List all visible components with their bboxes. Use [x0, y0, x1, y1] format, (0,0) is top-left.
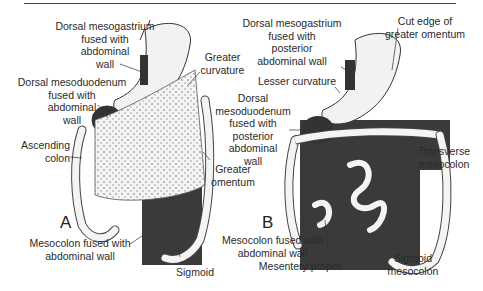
label-b-dorsal-mesogastrium: Dorsal mesogastrium fused with posterior… [238, 17, 346, 67]
label-a-sigmoid: Sigmoid [170, 266, 220, 279]
label-b-mesentery-proper: Mesentery proper [250, 260, 350, 273]
panel-letter-b: B [262, 213, 273, 233]
panel-letter-a: A [60, 213, 71, 233]
label-b-sigmoid-mesocolon: Sigmoid mesocolon [378, 252, 448, 277]
label-b-dorsal-mesoduodenum: Dorsal mesoduodenum fused with posterior… [213, 92, 293, 167]
label-b-cut-edge: Cut edge of greater omentum [380, 15, 470, 40]
label-b-mesocolon: Mesocolon fused with abdominal wall [215, 234, 330, 259]
label-a-ascending-colon: Ascending colon [18, 139, 70, 164]
label-a-dorsal-mesoduodenum: Dorsal mesoduodenum fused with abdominal… [12, 76, 132, 126]
label-b-transverse-mesocolon: Transverse mesocolon [408, 145, 480, 170]
label-b-lesser-curvature: Lesser curvature [252, 75, 342, 88]
label-a-mesocolon: Mesocolon fused with abdominal wall [25, 237, 135, 262]
label-a-dorsal-mesogastrium: Dorsal mesogastrium fused with abdominal… [50, 20, 160, 70]
